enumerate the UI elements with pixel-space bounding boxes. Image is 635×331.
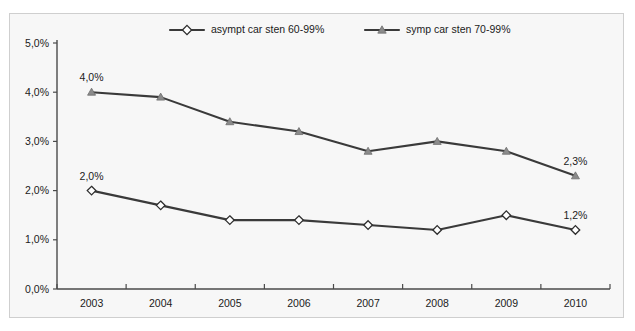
data-point-marker-diamond — [502, 211, 511, 220]
data-point-label: 1,2% — [563, 209, 587, 221]
legend-label: asympt car sten 60-99% — [211, 23, 324, 35]
y-axis-tick-label: 3,0% — [25, 135, 49, 147]
data-point-marker-diamond — [295, 216, 304, 225]
legend-marker-diamond-icon — [182, 25, 191, 34]
x-axis-tick-label: 2004 — [149, 297, 173, 309]
x-axis-tick-label: 2009 — [495, 297, 519, 309]
data-point-marker-diamond — [87, 186, 96, 195]
data-point-label: 2,3% — [563, 155, 587, 167]
legend-label: symp car sten 70-99% — [406, 23, 510, 35]
y-axis-tick-label: 0,0% — [25, 283, 49, 295]
x-axis-tick-label: 2010 — [564, 297, 588, 309]
data-point-marker-diamond — [364, 221, 373, 230]
series-line — [92, 191, 576, 230]
y-axis-tick-label: 2,0% — [25, 184, 49, 196]
x-axis-tick-label: 2006 — [287, 297, 311, 309]
data-point-marker-diamond — [433, 226, 442, 235]
chart-panel: 0,0%1,0%2,0%3,0%4,0%5,0%2003200420052006… — [9, 13, 624, 318]
data-point-marker-diamond — [226, 216, 235, 225]
y-axis-tick-label: 4,0% — [25, 86, 49, 98]
legend-entry-2: symp car sten 70-99% — [365, 23, 510, 35]
y-axis-tick-label: 1,0% — [25, 233, 49, 245]
series-1: 2,0%1,2% — [80, 170, 588, 235]
x-axis-tick-label: 2008 — [426, 297, 450, 309]
data-point-marker-diamond — [156, 201, 165, 210]
series-2: 4,0%2,3% — [80, 71, 588, 179]
x-axis-tick-label: 2007 — [356, 297, 380, 309]
data-point-label: 2,0% — [80, 170, 104, 182]
x-axis-tick-label: 2005 — [218, 297, 242, 309]
legend-entry-1: asympt car sten 60-99% — [170, 23, 324, 35]
series-line — [92, 92, 576, 176]
x-axis-tick-label: 2003 — [80, 297, 104, 309]
y-axis-tick-label: 5,0% — [25, 37, 49, 49]
data-point-marker-diamond — [571, 226, 580, 235]
data-point-label: 4,0% — [80, 71, 104, 83]
line-chart: 0,0%1,0%2,0%3,0%4,0%5,0%2003200420052006… — [10, 14, 623, 317]
